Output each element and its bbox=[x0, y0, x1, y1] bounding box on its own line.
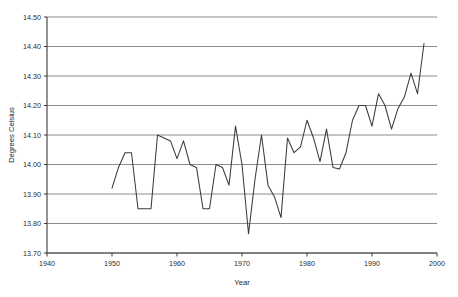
x-tick-label: 1990 bbox=[364, 259, 380, 268]
x-tick-label: 1950 bbox=[104, 259, 120, 268]
y-tick-label: 13.70 bbox=[23, 249, 41, 258]
y-tick-label: 14.50 bbox=[23, 13, 41, 22]
x-tick-label: 1960 bbox=[169, 259, 185, 268]
y-tick-label: 14.40 bbox=[23, 42, 41, 51]
x-tick-label: 1980 bbox=[299, 259, 315, 268]
x-tick-label: 1970 bbox=[234, 259, 250, 268]
x-tick-label: 2000 bbox=[429, 259, 445, 268]
chart-canvas: 13.7013.8013.9014.0014.1014.2014.3014.40… bbox=[0, 0, 458, 297]
y-tick-label: 14.30 bbox=[23, 72, 41, 81]
y-tick-label: 14.20 bbox=[23, 101, 41, 110]
temperature-line-chart: 13.7013.8013.9014.0014.1014.2014.3014.40… bbox=[0, 0, 458, 297]
x-axis-title: Year bbox=[234, 278, 250, 287]
y-tick-label: 14.10 bbox=[23, 131, 41, 140]
y-tick-label: 13.90 bbox=[23, 190, 41, 199]
y-tick-labels: 13.7013.8013.9014.0014.1014.2014.3014.40… bbox=[23, 13, 41, 258]
y-tick-label: 14.00 bbox=[23, 160, 41, 169]
x-tick-label: 1940 bbox=[39, 259, 55, 268]
y-axis-title: Degrees Celsius bbox=[7, 107, 16, 163]
y-tick-label: 13.80 bbox=[23, 219, 41, 228]
